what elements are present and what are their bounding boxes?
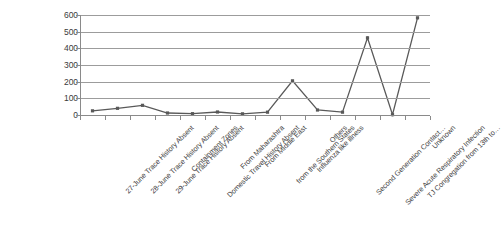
gridline: [80, 15, 430, 16]
y-tick-mark: [76, 15, 80, 16]
x-axis-tick-marks: [80, 116, 430, 121]
data-point-marker: [116, 107, 119, 110]
x-tick-mark: [430, 116, 431, 120]
gridline: [80, 82, 430, 83]
x-tick-label: Unknown: [430, 124, 456, 150]
y-tick-mark: [76, 32, 80, 33]
x-tick-label: Severe Acute Respiratory Infection: [403, 124, 485, 206]
x-tick-label: Others: [328, 124, 348, 144]
y-tick-mark: [76, 65, 80, 66]
y-axis-labels: 6005004003002001000: [54, 15, 78, 115]
x-tick-mark: [355, 116, 356, 120]
data-point-marker: [341, 111, 344, 114]
gridline: [80, 65, 430, 66]
y-tick-mark: [76, 115, 80, 116]
x-tick-label: Domestic Travel History Absent: [225, 124, 300, 199]
x-tick-mark: [380, 116, 381, 120]
x-tick-mark: [330, 116, 331, 120]
x-tick-mark: [130, 116, 131, 120]
x-tick-label: from the Southern States: [295, 124, 356, 185]
data-point-marker: [91, 109, 94, 112]
x-tick-mark: [205, 116, 206, 120]
gridline: [80, 48, 430, 49]
x-tick-label: Second Generation Contact…: [374, 124, 446, 196]
x-tick-mark: [80, 116, 81, 120]
y-tick-mark: [76, 82, 80, 83]
y-tick-mark: [76, 48, 80, 49]
data-point-marker: [266, 111, 269, 114]
x-tick-mark: [105, 116, 106, 120]
data-point-marker: [216, 110, 219, 113]
x-tick-mark: [405, 116, 406, 120]
data-point-marker: [366, 36, 369, 39]
x-tick-label: From Middle East: [263, 124, 307, 168]
y-axis-spine: [80, 15, 81, 116]
x-tick-label: 28-June Trace History Absent: [149, 124, 220, 195]
x-tick-mark: [155, 116, 156, 120]
data-point-marker: [316, 108, 319, 111]
y-tick-mark: [76, 98, 80, 99]
x-tick-mark: [180, 116, 181, 120]
x-tick-mark: [230, 116, 231, 120]
data-point-marker: [141, 104, 144, 107]
x-tick-label: 29-June Trace History Absent: [174, 124, 245, 195]
x-tick-label: TJ Congregation from 13th to…: [426, 124, 501, 199]
x-tick-mark: [305, 116, 306, 120]
data-point-marker: [416, 16, 419, 19]
gridline: [80, 98, 430, 99]
x-tick-mark: [280, 116, 281, 120]
x-tick-label: Influenza like illness: [315, 124, 365, 174]
x-tick-label: From Maharashtra: [239, 124, 285, 170]
x-tick-label: 27-June Trace History Absent: [124, 124, 195, 195]
gridline: [80, 32, 430, 33]
x-tick-label: Containment Zones: [190, 124, 239, 173]
x-tick-mark: [255, 116, 256, 120]
plot-area: [80, 15, 430, 115]
